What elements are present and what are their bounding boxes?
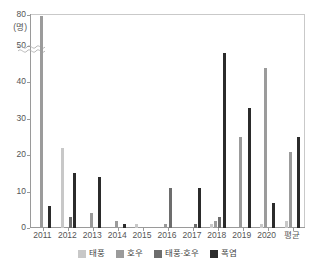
- chart-legend: 태풍호우태풍·호우폭염: [0, 249, 315, 258]
- bar-2017-폭염: [198, 188, 201, 228]
- bar-group-2019: [230, 14, 255, 228]
- bar-group-2018: [205, 14, 230, 228]
- legend-label: 호우: [127, 249, 143, 258]
- legend-swatch-icon: [210, 250, 218, 258]
- x-tick-label-2017: 2017: [182, 230, 201, 241]
- bar-2020-태풍: [260, 224, 263, 228]
- y-tick-label-40: 40: [17, 77, 26, 86]
- y-tick-label-0: 0: [21, 223, 26, 232]
- bar-group-평균: [280, 14, 305, 228]
- bar-group-2015: [131, 14, 156, 228]
- x-tick-label-2019: 2019: [232, 230, 251, 241]
- y-tickmark: [27, 119, 30, 120]
- bar-group-2012: [56, 14, 81, 228]
- bar-2020-호우: [264, 68, 267, 228]
- bar-2015-태풍: [135, 224, 138, 228]
- bar-2012-태풍: [61, 148, 64, 228]
- x-tick-label-2013: 2013: [83, 230, 102, 241]
- bar-2018-폭염: [223, 53, 226, 228]
- bar-2018-호우: [214, 221, 217, 228]
- bar-2012-태풍·호우: [69, 217, 72, 228]
- x-tick-label-2012: 2012: [58, 230, 77, 241]
- bar-2013-폭염: [98, 177, 101, 228]
- bar-2019-폭염: [248, 108, 251, 228]
- x-tick-label-2018: 2018: [207, 230, 226, 241]
- bar-2014-폭염: [123, 224, 126, 228]
- legend-item-태풍·호우[interactable]: 태풍·호우: [154, 249, 200, 258]
- bar-2012-폭염: [73, 173, 76, 228]
- x-tick-label-2011: 2011: [33, 230, 51, 241]
- y-tickmark: [27, 228, 30, 229]
- legend-label: 폭염: [221, 249, 237, 258]
- y-tickmark: [27, 155, 30, 156]
- bar-2019-호우: [239, 137, 242, 228]
- x-tick-label-2014: 2014: [108, 230, 127, 241]
- y-tick-label-30: 30: [17, 114, 26, 123]
- bar-2011-폭염: [48, 206, 51, 228]
- bar-평균-호우: [289, 152, 292, 228]
- y-tick-label-20: 20: [17, 150, 26, 159]
- legend-item-태풍[interactable]: 태풍: [78, 249, 105, 258]
- bar-평균-폭염: [297, 137, 300, 228]
- legend-swatch-icon: [154, 250, 162, 258]
- x-tick-label-2016: 2016: [158, 230, 177, 241]
- bar-2020-폭염: [272, 203, 275, 228]
- bar-2014-호우: [115, 221, 118, 228]
- y-tick-label-10: 10: [17, 187, 26, 196]
- bar-group-2014: [106, 14, 131, 228]
- bar-2016-호우: [164, 224, 167, 228]
- bar-2017-태풍·호우: [194, 224, 197, 228]
- y-axis-unit-label: (명): [13, 23, 27, 32]
- bar-2018-태풍: [210, 224, 213, 228]
- legend-swatch-icon: [116, 250, 124, 258]
- y-tickmark: [27, 192, 30, 193]
- bar-group-2011: [31, 14, 56, 228]
- bar-group-2017: [180, 14, 205, 228]
- legend-item-폭염[interactable]: 폭염: [210, 249, 237, 258]
- x-tick-label-2015: 2015: [133, 230, 152, 241]
- bar-평균-태풍: [285, 221, 288, 228]
- y-tickmark: [27, 15, 30, 16]
- bar-2016-태풍·호우: [169, 188, 172, 228]
- bars-layer: [31, 14, 305, 228]
- bar-group-2020: [255, 14, 280, 228]
- y-tickmark: [27, 82, 30, 83]
- legend-swatch-icon: [78, 250, 86, 258]
- bar-group-2013: [81, 14, 106, 228]
- bar-chart: 8050403020100(명) 20112012201320142015201…: [0, 0, 315, 273]
- bar-2013-호우: [90, 213, 93, 228]
- bar-2018-태풍·호우: [218, 217, 221, 228]
- x-axis: 2011201220132014201520162017201820192020…: [30, 230, 305, 244]
- bar-2011-호우: [40, 16, 43, 228]
- legend-item-호우[interactable]: 호우: [116, 249, 143, 258]
- legend-label: 태풍: [89, 249, 105, 258]
- x-tick-label-2020: 2020: [257, 230, 276, 241]
- bar-group-2016: [156, 14, 181, 228]
- y-tick-label-80: 80: [17, 10, 26, 19]
- y-tickmark: [27, 46, 30, 47]
- legend-label: 태풍·호우: [165, 249, 200, 258]
- x-tick-label-평균: 평균: [284, 230, 300, 241]
